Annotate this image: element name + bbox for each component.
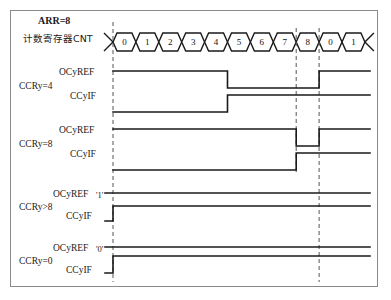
counter-cell-value: 7 — [283, 37, 288, 47]
counter-chevron — [365, 33, 374, 51]
wave-gt8-ccyif — [105, 206, 370, 221]
counter-cell-value: 3 — [191, 37, 196, 47]
waveform-canvas: 01234567801 — [0, 0, 391, 300]
wave-ccry0-ccyif — [105, 256, 370, 273]
counter-cell-value: 4 — [214, 37, 219, 47]
counter-cell-group: 01234567801 — [104, 33, 374, 51]
counter-cell-value: 8 — [305, 37, 310, 47]
counter-cell-value: 2 — [168, 37, 173, 47]
wave-ccry4-ccyif — [113, 95, 370, 112]
marker-line-group — [113, 22, 319, 282]
counter-cell-value: 6 — [260, 37, 265, 47]
waveform-group — [105, 71, 370, 273]
counter-cell-value: 5 — [237, 37, 242, 47]
wave-ccry8-ccyif — [113, 153, 370, 170]
counter-cell-value: 0 — [122, 37, 127, 47]
timing-diagram-root: ARR=8 计数寄存器CNT CCRy=4 OCyREF CCyIF CCRy=… — [0, 0, 391, 300]
wave-ccry8-ocyref — [113, 129, 370, 146]
counter-cell-value: 0 — [328, 37, 333, 47]
counter-cell-value: 1 — [351, 37, 356, 47]
counter-chevron — [104, 33, 113, 51]
counter-cell-value: 1 — [145, 37, 150, 47]
wave-ccry4-ocyref — [113, 71, 370, 88]
